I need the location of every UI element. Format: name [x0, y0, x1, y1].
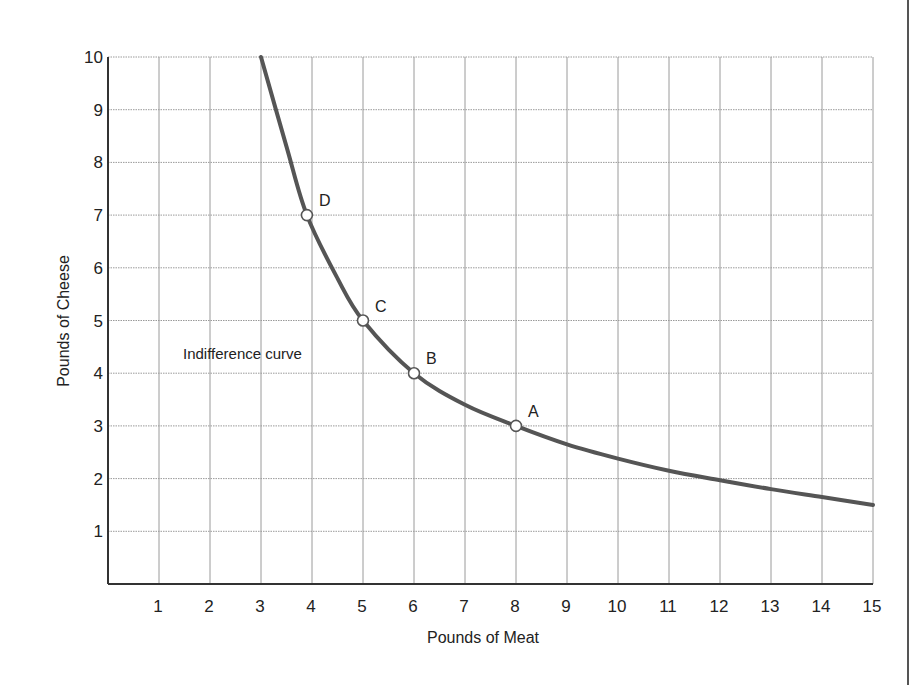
x-tick-label: 15 — [863, 597, 882, 616]
point-label: C — [375, 298, 387, 315]
indifference-curve-chart: 123456789101112131415 12345678910 DCBA I… — [0, 0, 920, 685]
curve-points: DCBA — [301, 192, 539, 431]
x-tick-label: 1 — [153, 597, 162, 616]
x-tick-label: 12 — [710, 597, 729, 616]
point-marker — [358, 315, 369, 326]
y-tick-label: 7 — [94, 206, 103, 225]
grid — [108, 57, 873, 584]
x-tick-label: 10 — [608, 597, 627, 616]
x-tick-label: 4 — [306, 597, 315, 616]
point-marker — [511, 420, 522, 431]
x-tick-label: 5 — [357, 597, 366, 616]
x-tick-label: 11 — [659, 597, 677, 616]
x-tick-label: 8 — [510, 597, 519, 616]
x-axis-title: Pounds of Meat — [427, 629, 540, 646]
y-tick-label: 8 — [94, 153, 103, 172]
y-tick-label: 10 — [84, 48, 103, 67]
x-tick-label: 13 — [761, 597, 780, 616]
x-tick-label: 6 — [408, 597, 417, 616]
y-tick-label: 9 — [94, 101, 103, 120]
y-tick-labels: 12345678910 — [84, 48, 103, 541]
y-tick-label: 4 — [94, 364, 103, 383]
x-tick-label: 7 — [459, 597, 468, 616]
y-tick-label: 3 — [94, 417, 103, 436]
point-b: B — [409, 350, 437, 379]
point-label: D — [319, 192, 331, 209]
x-tick-label: 9 — [561, 597, 570, 616]
point-label: A — [528, 403, 539, 420]
y-axis-title: Pounds of Cheese — [55, 255, 72, 387]
point-marker — [301, 210, 312, 221]
curve-annotation: Indifference curve — [183, 345, 302, 362]
point-c: C — [358, 298, 387, 327]
y-tick-label: 5 — [94, 312, 103, 331]
x-tick-labels: 123456789101112131415 — [153, 597, 881, 616]
y-tick-label: 6 — [94, 259, 103, 278]
point-marker — [409, 368, 420, 379]
point-label: B — [426, 350, 437, 367]
x-tick-label: 14 — [812, 597, 831, 616]
y-tick-label: 2 — [94, 470, 103, 489]
x-tick-label: 2 — [204, 597, 213, 616]
x-tick-label: 3 — [255, 597, 264, 616]
y-tick-label: 1 — [94, 522, 103, 541]
